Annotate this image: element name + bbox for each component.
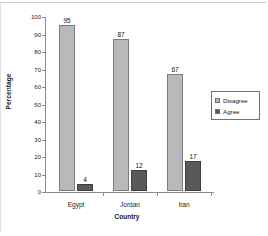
y-tick-label: 40: [19, 119, 41, 125]
chart-legend: Disagree Agree: [211, 91, 260, 120]
bar-egypt-disagree[interactable]: [59, 25, 75, 191]
y-tick-mark: [42, 122, 45, 123]
y-tick-mark: [42, 192, 45, 193]
y-tick-label: 100: [19, 14, 41, 20]
legend-label-disagree: Disagree: [223, 97, 248, 104]
bar-value-jordan-agree: 12: [124, 162, 154, 169]
y-tick-mark: [42, 35, 45, 36]
bar-chart-figure: Percentage Country 100908070605040302010…: [0, 0, 268, 236]
bar-iran-disagree[interactable]: [167, 74, 183, 191]
bar-value-jordan-disagree: 87: [106, 31, 136, 38]
legend-item-disagree[interactable]: Disagree: [215, 95, 259, 106]
bar-egypt-agree[interactable]: [77, 184, 93, 191]
legend-item-agree[interactable]: Agree: [215, 106, 259, 117]
y-tick-mark: [42, 87, 45, 88]
plot-area: 1009080706050403020100 EgyptJordanIran 9…: [45, 17, 205, 192]
y-tick-label: 50: [19, 102, 41, 108]
y-tick-label: 20: [19, 154, 41, 160]
y-tick-mark: [42, 140, 45, 141]
y-tick-mark: [42, 52, 45, 53]
legend-swatch-agree-icon: [215, 109, 220, 114]
bar-value-iran-disagree: 67: [160, 66, 190, 73]
x-axis-title: Country: [40, 213, 214, 220]
y-tick-label: 0: [19, 189, 41, 195]
x-tick-label-jordan: Jordan: [103, 201, 157, 208]
y-tick-mark: [42, 175, 45, 176]
x-axis-line: [45, 192, 214, 193]
y-tick-mark: [42, 17, 45, 18]
y-axis-title: Percentage: [5, 60, 12, 124]
x-tick-mark: [103, 193, 104, 196]
bar-jordan-agree[interactable]: [131, 170, 147, 191]
y-tick-label: 90: [19, 32, 41, 38]
bar-value-iran-agree: 17: [178, 153, 208, 160]
y-tick-label: 80: [19, 49, 41, 55]
y-tick-label: 70: [19, 67, 41, 73]
bar-value-egypt-disagree: 95: [52, 17, 82, 24]
y-tick-mark: [42, 70, 45, 71]
x-tick-mark: [157, 193, 158, 196]
y-tick-mark: [42, 105, 45, 106]
y-tick-label: 60: [19, 84, 41, 90]
legend-label-agree: Agree: [223, 108, 240, 115]
bar-iran-agree[interactable]: [185, 161, 201, 191]
y-tick-label: 10: [19, 172, 41, 178]
y-axis-line: [45, 17, 46, 193]
x-tick-label-egypt: Egypt: [49, 201, 103, 208]
y-tick-mark: [42, 157, 45, 158]
x-tick-mark: [211, 193, 212, 196]
legend-swatch-disagree-icon: [215, 98, 220, 103]
x-tick-label-iran: Iran: [157, 201, 211, 208]
y-tick-label: 30: [19, 137, 41, 143]
bar-value-egypt-agree: 4: [70, 176, 100, 183]
